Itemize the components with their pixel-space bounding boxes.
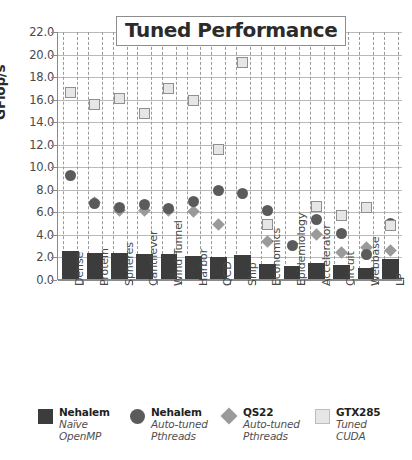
marker-gtx285: [163, 83, 174, 94]
legend-item-title: Nehalem: [59, 406, 110, 418]
legend-item-subtitle-1: Auto-tuned: [151, 418, 208, 430]
x-axis-category-label: Epidemiology: [295, 213, 308, 286]
category-column: [206, 32, 231, 279]
legend-text: NehalemAuto-tunedPthreads: [151, 406, 208, 442]
marker-nehalem-autotuned: [65, 170, 76, 181]
legend-text: QS22Auto-tunedPthreads: [243, 406, 300, 442]
chart-container: GFlop/s 0.02.04.06.08.010.012.014.016.01…: [0, 0, 412, 300]
legend-item-subtitle-1: Auto-tuned: [243, 418, 300, 430]
marker-gtx285: [336, 210, 347, 221]
x-axis-category-label: Economics: [270, 228, 283, 286]
x-axis-category-label: Spheres: [123, 242, 136, 286]
legend-swatch-dark-circle-icon: [130, 409, 145, 424]
x-axis-category-label: Wind Tunnel: [172, 220, 185, 286]
marker-gtx285: [188, 95, 199, 106]
legend-swatch-dark-square-icon: [38, 409, 53, 424]
marker-qs22: [212, 218, 225, 231]
x-axis-category-label: QCD: [221, 261, 234, 286]
x-axis-category-label: Cantilever: [147, 231, 160, 286]
legend-item-subtitle-2: CUDA: [336, 430, 380, 442]
marker-nehalem-autotuned: [139, 199, 150, 210]
marker-nehalem-autotuned: [89, 198, 100, 209]
dropline: [334, 32, 335, 279]
marker-gtx285: [213, 144, 224, 155]
legend-text: GTX285TunedCUDA: [336, 406, 380, 442]
y-tick-mark: [51, 280, 57, 281]
dropline: [88, 32, 89, 279]
legend-item-subtitle-1: Naïve: [59, 418, 110, 430]
dropline: [310, 32, 311, 279]
x-axis-category-label: Protein: [98, 248, 111, 286]
dropline: [359, 32, 360, 279]
marker-gtx285: [65, 87, 76, 98]
category-column: [231, 32, 256, 279]
dropline: [187, 32, 188, 279]
dropline: [137, 32, 138, 279]
legend-swatch-gray-diamond-icon: [221, 408, 238, 425]
dropline: [211, 32, 212, 279]
x-axis-category-label: Dense: [73, 252, 86, 286]
marker-nehalem-autotuned: [237, 188, 248, 199]
marker-qs22: [384, 244, 397, 257]
dropline: [102, 32, 103, 279]
x-axis-category-label: Harbor: [197, 249, 210, 286]
dropline: [77, 32, 78, 279]
legend-swatch-light-square-icon: [315, 409, 330, 424]
plot-area: [57, 32, 402, 280]
legend-item-title: Nehalem: [151, 406, 208, 418]
dropline: [113, 32, 114, 279]
marker-nehalem-autotuned: [336, 228, 347, 239]
marker-gtx285: [139, 108, 150, 119]
dropline: [162, 32, 163, 279]
dropline: [225, 32, 226, 279]
legend-item-title: GTX285: [336, 406, 380, 418]
legend-item-subtitle-2: OpenMP: [59, 430, 110, 442]
dropline: [250, 32, 251, 279]
dropline: [348, 32, 349, 279]
marker-gtx285: [385, 220, 396, 231]
marker-nehalem-autotuned: [163, 203, 174, 214]
marker-gtx285: [311, 201, 322, 212]
marker-gtx285: [114, 93, 125, 104]
chart-title: Tuned Performance: [116, 16, 346, 46]
dropline: [398, 32, 399, 279]
marker-nehalem-autotuned: [213, 185, 224, 196]
legend-item-subtitle-2: Pthreads: [151, 430, 208, 442]
marker-gtx285: [89, 99, 100, 110]
dropline: [384, 32, 385, 279]
dropline: [63, 32, 64, 279]
legend-text: NehalemNaïveOpenMP: [59, 406, 110, 442]
dropline: [236, 32, 237, 279]
x-axis-category-label: Ship: [246, 262, 259, 286]
x-axis-category-label: Accelerator: [320, 224, 333, 286]
dropline: [200, 32, 201, 279]
x-axis-category-label: LP: [394, 273, 407, 286]
marker-gtx285: [237, 57, 248, 68]
category-column: [83, 32, 108, 279]
marker-nehalem-autotuned: [311, 214, 322, 225]
category-column: [58, 32, 83, 279]
marker-gtx285: [361, 202, 372, 213]
y-axis-label: GFlop/s: [0, 65, 8, 120]
x-axis-category-label: Webbase: [369, 236, 382, 286]
x-axis-category-label: Circuit: [344, 251, 357, 286]
category-column: [378, 32, 403, 279]
legend-item-subtitle-2: Pthreads: [243, 430, 300, 442]
legend-item-subtitle-1: Tuned: [336, 418, 380, 430]
marker-nehalem-autotuned: [188, 196, 199, 207]
marker-qs22: [187, 205, 200, 218]
chart-legend: NehalemNaïveOpenMPNehalemAuto-tunedPthre…: [0, 400, 412, 460]
marker-nehalem-autotuned: [262, 205, 273, 216]
legend-item-title: QS22: [243, 406, 300, 418]
chart-screenshot: GFlop/s 0.02.04.06.08.010.012.014.016.01…: [0, 0, 412, 460]
dropline: [285, 32, 286, 279]
